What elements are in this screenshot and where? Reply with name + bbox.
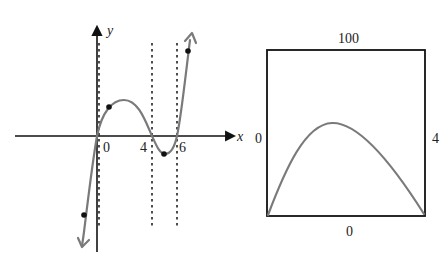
- tick-label-6: 6: [179, 140, 186, 155]
- point-right: [185, 48, 191, 54]
- figure-canvas: y x 0 4 6 100 0 0 4: [0, 0, 447, 265]
- window-left-label: 0: [255, 131, 262, 146]
- point-left: [81, 212, 87, 218]
- window-right-label: 4: [432, 131, 439, 146]
- left-cubic-graph: y x 0 4 6: [15, 23, 244, 252]
- x-axis-label: x: [236, 129, 244, 144]
- tick-label-0: 0: [103, 140, 110, 155]
- right-window-graph: 100 0 0 4: [255, 31, 439, 239]
- point-near-max: [106, 104, 112, 110]
- tick-label-4: 4: [140, 140, 147, 155]
- y-axis-label: y: [105, 23, 114, 38]
- arch-curve: [268, 123, 424, 215]
- window-bottom-label: 0: [346, 224, 353, 239]
- point-near-min: [161, 151, 167, 157]
- window-top-label: 100: [338, 31, 359, 46]
- viewing-window-frame: [267, 50, 425, 216]
